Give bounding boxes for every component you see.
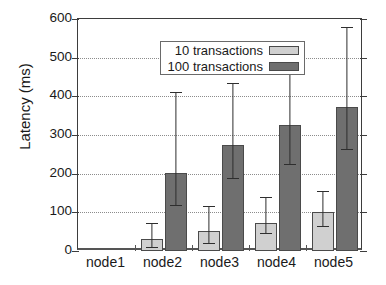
error-bar-node2-series1	[146, 223, 158, 249]
x-tickmark	[306, 245, 307, 251]
y-tickmark	[360, 212, 367, 213]
error-bar-stem	[265, 197, 266, 234]
x-tick-label-node2: node2	[134, 255, 191, 269]
error-bar-stem	[322, 191, 323, 227]
y-tick-label: 500	[38, 50, 72, 64]
error-bar-cap-top	[146, 223, 158, 224]
error-bar-node5-series2	[341, 27, 353, 150]
error-bar-cap-top	[341, 27, 353, 28]
y-tickmark	[72, 19, 79, 20]
y-tickmark	[72, 251, 79, 252]
y-tick-label: 300	[38, 127, 72, 141]
x-tick-label-node1: node1	[77, 255, 134, 269]
y-tick-label: 600	[38, 11, 72, 25]
error-bar-cap-bottom	[203, 243, 215, 244]
error-bar-cap-bottom	[317, 226, 329, 227]
x-tick-label-node3: node3	[191, 255, 248, 269]
y-axis-tick-labels: 6005004003002001000	[34, 0, 72, 285]
y-tick-label: 200	[38, 166, 72, 180]
legend-entry-1: 10 transactions	[161, 43, 304, 58]
error-bar-cap-top	[227, 83, 239, 84]
error-bar-cap-top	[260, 197, 272, 198]
x-tick-label-node5: node5	[305, 255, 362, 269]
error-bar-node2-series2	[170, 92, 182, 205]
y-tick-label: 400	[38, 88, 72, 102]
gridline	[78, 135, 361, 136]
error-bar-node4-series1	[260, 197, 272, 234]
light-gray-swatch	[269, 46, 299, 55]
y-tickmark	[72, 174, 79, 175]
error-bar-stem	[175, 92, 176, 205]
dark-gray-swatch	[269, 62, 299, 71]
y-tickmark	[72, 58, 79, 59]
error-bar-stem	[232, 83, 233, 179]
y-tickmark	[72, 96, 79, 97]
error-bar-cap-bottom	[170, 205, 182, 206]
x-tickmark	[192, 245, 193, 251]
error-bar-cap-top	[203, 206, 215, 207]
y-tickmark	[360, 135, 367, 136]
gridline	[78, 96, 361, 97]
y-tickmark	[360, 174, 367, 175]
latency-bar-chart: Latency (ms) 6005004003002001000 10 tran…	[0, 0, 386, 285]
error-bar-cap-top	[170, 92, 182, 93]
y-tick-label: 0	[38, 243, 72, 257]
x-tick-label-node4: node4	[248, 255, 305, 269]
error-bar-cap-top	[317, 191, 329, 192]
chart-legend: 10 transactions100 transactions	[160, 41, 305, 75]
x-tickmark	[249, 245, 250, 251]
legend-label: 100 transactions	[161, 60, 269, 73]
gridline	[78, 174, 361, 175]
y-tickmark	[360, 96, 367, 97]
y-tickmark	[360, 58, 367, 59]
error-bar-cap-bottom	[260, 233, 272, 234]
error-bar-node3-series2	[227, 83, 239, 179]
plot-area: 10 transactions100 transactions	[77, 18, 362, 250]
y-tickmark	[72, 212, 79, 213]
error-bar-stem	[208, 206, 209, 244]
error-bar-node5-series1	[317, 191, 329, 227]
legend-label: 10 transactions	[161, 44, 269, 57]
error-bar-stem	[151, 223, 152, 249]
y-tickmark	[72, 135, 79, 136]
y-tick-label: 100	[38, 204, 72, 218]
y-tickmark	[360, 251, 367, 252]
y-tickmark	[360, 19, 367, 20]
error-bar-cap-bottom	[341, 149, 353, 150]
error-bar-cap-bottom	[284, 164, 296, 165]
legend-entry-2: 100 transactions	[161, 59, 304, 74]
error-bar-node3-series1	[203, 206, 215, 244]
error-bar-stem	[346, 27, 347, 150]
error-bar-cap-bottom	[146, 247, 158, 248]
y-axis-title: Latency (ms)	[16, 37, 33, 177]
x-tickmark	[135, 245, 136, 251]
error-bar-cap-bottom	[227, 178, 239, 179]
